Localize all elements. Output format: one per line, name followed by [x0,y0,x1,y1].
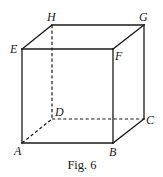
vertex-label-d: D [54,105,64,119]
edge-fg [113,25,144,49]
vertex-label-c: C [146,113,155,127]
vertex-label-f: F [114,49,123,63]
vertex-label-a: A [13,144,22,158]
vertex-label-h: H [46,10,57,24]
cube-diagram: ABCDEFGH Fig. 6 [0,0,163,177]
cube-edges [22,25,144,143]
vertex-label-b: B [109,145,117,159]
edge-bc [113,119,144,143]
vertex-labels: ABCDEFGH [9,10,155,159]
edge-ad-hidden [22,119,52,143]
figure-caption: Fig. 6 [67,158,96,172]
edge-he [22,25,52,49]
vertex-label-e: E [9,42,18,56]
vertex-label-g: G [139,10,148,24]
